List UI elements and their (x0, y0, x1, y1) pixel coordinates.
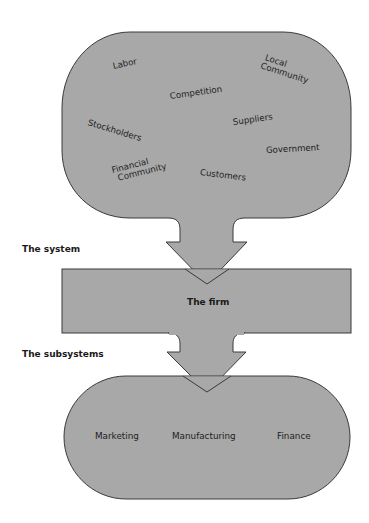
label-the-subsystems: The subsystems (22, 349, 104, 359)
subsystem-label-manufacturing: Manufacturing (172, 431, 236, 441)
subsystem-label-finance: Finance (277, 431, 311, 441)
firm-label: The firm (187, 297, 229, 307)
subsystem-label-marketing: Marketing (95, 431, 139, 441)
system-diagram (0, 0, 369, 523)
arrow-seam-cover (169, 332, 244, 335)
label-the-system: The system (22, 244, 80, 254)
